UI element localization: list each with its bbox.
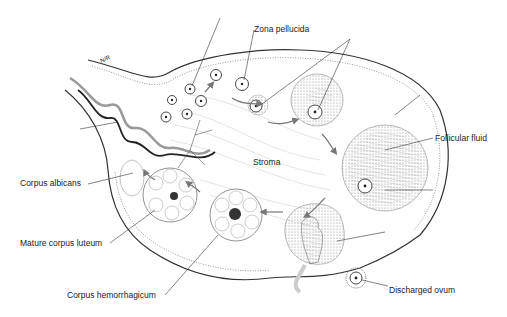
label-discharged-ovum: Discharged ovum <box>389 285 455 295</box>
label-follicular-fluid: Follicular fluid <box>435 133 487 143</box>
label-corpus-albicans: Corpus albicans <box>20 178 81 188</box>
label-zona-pellucida: Zona pellucida <box>254 24 309 34</box>
primary-follicles <box>161 70 249 123</box>
label-corpus-hemorrhagicum: Corpus hemorrhagicum <box>67 290 156 300</box>
label-mature-corpus-luteum: Mature corpus luteum <box>20 238 102 248</box>
label-stroma: Stroma <box>253 157 280 167</box>
